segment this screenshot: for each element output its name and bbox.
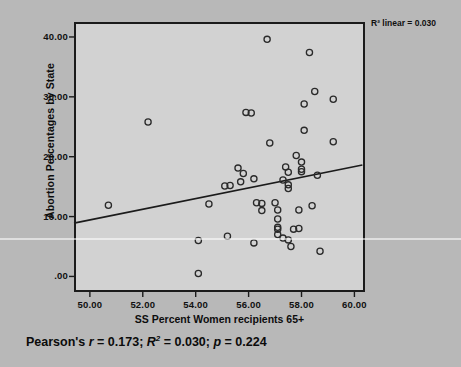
data-point [259, 207, 265, 213]
data-point [224, 233, 230, 239]
x-tick-label: 56.00 [232, 299, 266, 310]
chart-canvas [0, 0, 461, 367]
r-squared-annotation: R² linear = 0.030 [371, 18, 436, 28]
data-point [285, 169, 291, 175]
regression-line [74, 165, 362, 223]
statistics-caption: Pearson's r = 0.173; R2 = 0.030; p = 0.2… [26, 334, 267, 349]
data-point [301, 101, 307, 107]
scatter-plot-figure: 50.0052.0054.0056.0058.0060.00.0010.0020… [0, 0, 461, 367]
y-axis-label: Abortion Percentages by State [44, 31, 56, 251]
data-point [288, 243, 294, 249]
data-point [105, 202, 111, 208]
data-point [275, 207, 281, 213]
data-point [317, 248, 323, 254]
data-point [206, 201, 212, 207]
data-point [301, 127, 307, 133]
caption-p-eq: = [221, 335, 235, 349]
data-point [195, 237, 201, 243]
data-point [267, 140, 273, 146]
data-point [145, 119, 151, 125]
data-point [312, 88, 318, 94]
caption-p-symbol: p [213, 335, 221, 349]
x-tick-label: 52.00 [126, 299, 160, 310]
x-tick-label: 60.00 [337, 299, 371, 310]
data-point [275, 216, 281, 222]
x-tick-label: 50.00 [73, 299, 107, 310]
caption-r2-eq: = [160, 335, 174, 349]
x-tick-label: 58.00 [285, 299, 319, 310]
data-point [195, 270, 201, 276]
data-point [238, 179, 244, 185]
data-point [330, 139, 336, 145]
data-point [235, 165, 241, 171]
y-tick-label: .00 [20, 270, 68, 281]
caption-sep-1: ; [139, 335, 147, 349]
caption-r2-symbol: R2 [147, 335, 160, 349]
data-point [251, 240, 257, 246]
data-point [309, 203, 315, 209]
data-point [240, 170, 246, 176]
x-axis-label: SS Percent Women recipients 65+ [74, 313, 365, 325]
data-point [293, 152, 299, 158]
caption-r2-number: 0.030 [175, 335, 206, 349]
caption-p-number: 0.224 [235, 335, 266, 349]
data-point [330, 96, 336, 102]
data-point [251, 176, 257, 182]
data-point [298, 159, 304, 165]
data-point [272, 200, 278, 206]
data-point [264, 36, 270, 42]
x-tick-label: 54.00 [179, 299, 213, 310]
caption-pearson-label: Pearson's [26, 335, 89, 349]
caption-r-value: = [94, 335, 108, 349]
data-point [296, 207, 302, 213]
caption-r-number: 0.173 [108, 335, 139, 349]
data-point [306, 49, 312, 55]
